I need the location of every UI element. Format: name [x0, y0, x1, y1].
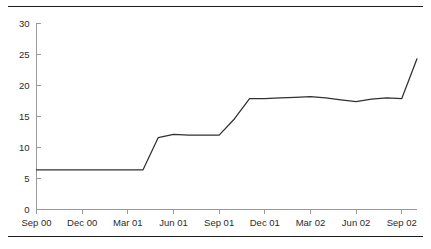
x-tick-label: Mar 02	[296, 217, 326, 228]
x-tick-label: Sep 00	[21, 217, 51, 228]
y-tick-label: 30	[19, 18, 30, 29]
x-tick-label: Jun 02	[342, 217, 371, 228]
x-tick-label: Dec 00	[67, 217, 97, 228]
y-tick-label: 20	[19, 80, 30, 91]
x-tick-label: Mar 01	[113, 217, 143, 228]
y-tick-label: 0	[24, 204, 29, 215]
x-tick-label: Jun 01	[159, 217, 188, 228]
x-tick-label: Dec 01	[250, 217, 280, 228]
y-tick-label: 25	[19, 49, 30, 60]
series-line	[37, 59, 418, 170]
x-tick-label: Sep 02	[387, 217, 417, 228]
chart-plot-area: 051015202530 Sep 00Dec 00Mar 01Jun 01Sep…	[0, 0, 431, 249]
figure: 051015202530 Sep 00Dec 00Mar 01Jun 01Sep…	[0, 0, 431, 249]
y-axis: 051015202530	[19, 18, 41, 215]
line-chart: 051015202530 Sep 00Dec 00Mar 01Jun 01Sep…	[0, 0, 431, 249]
y-tick-label: 15	[19, 111, 30, 122]
y-tick-label: 5	[24, 173, 29, 184]
x-tick-label: Sep 01	[204, 217, 234, 228]
x-axis: Sep 00Dec 00Mar 01Jun 01Sep 01Dec 01Mar …	[21, 210, 417, 229]
data-series	[37, 59, 418, 170]
y-tick-label: 10	[19, 142, 30, 153]
